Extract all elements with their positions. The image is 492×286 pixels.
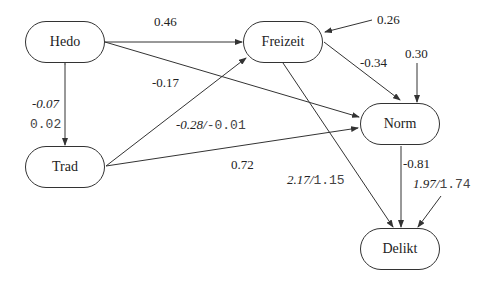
- label-trad-freizeit-italic: -0.28/: [176, 117, 207, 132]
- label-freizeit-delikt-mono: 1.15: [313, 173, 344, 188]
- label-delikt-error: 1.97/1.74: [413, 176, 471, 192]
- label-trad-norm: 0.72: [231, 157, 254, 173]
- label-trad-freizeit: -0.28/-0.01: [176, 117, 246, 133]
- label-hedo-trad-italic: -0.07: [32, 96, 59, 112]
- node-norm: Norm: [360, 103, 440, 145]
- edge-freizeit-delikt: [283, 63, 393, 227]
- label-delikt-error-mono: 1.74: [439, 177, 470, 192]
- label-freizeit-norm: -0.34: [360, 55, 387, 71]
- label-freizeit-error: 0.26: [377, 12, 400, 28]
- label-norm-delikt: -0.81: [403, 156, 430, 172]
- label-freizeit-delikt: 2.17/1.15: [287, 172, 345, 188]
- node-delikt: Delikt: [360, 228, 440, 270]
- edge-freizeit-norm: [324, 42, 400, 100]
- label-delikt-error-italic: 1.97/: [413, 176, 439, 191]
- label-norm-error: 0.30: [405, 46, 428, 62]
- label-hedo-trad-mono: 0.02: [30, 117, 61, 132]
- label-freizeit-delikt-italic: 2.17/: [287, 172, 313, 187]
- node-hedo: Hedo: [25, 21, 105, 63]
- label-hedo-norm: -0.17: [152, 75, 179, 91]
- edge-error-delikt: [418, 196, 441, 227]
- label-trad-freizeit-mono: -0.01: [207, 118, 246, 133]
- edge-error-freizeit: [325, 20, 372, 32]
- label-hedo-freizeit: 0.46: [154, 14, 177, 30]
- node-trad: Trad: [25, 146, 105, 188]
- edge-hedo-norm: [105, 42, 359, 117]
- node-freizeit: Freizeit: [243, 21, 323, 63]
